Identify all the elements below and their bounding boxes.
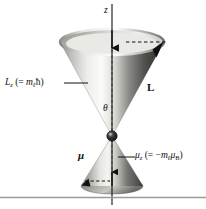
origin-sphere xyxy=(107,131,117,141)
mu-vector-label: μ xyxy=(78,150,84,161)
z-axis-label: z xyxy=(104,6,108,16)
origin-sphere-highlight xyxy=(109,133,112,136)
muz-component-label: μz (= −mℓμB) xyxy=(135,151,183,161)
lz-component-label: Lz (= mℓħ) xyxy=(5,78,44,88)
l-vector-label: L xyxy=(147,82,154,93)
angular-momentum-cone-figure: z θ L μ Lz (= mℓħ) μz (= −mℓμB) xyxy=(0,0,206,209)
theta-angle-label: θ xyxy=(103,104,108,114)
